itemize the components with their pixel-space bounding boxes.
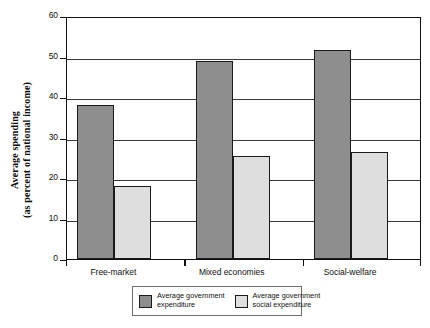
y-tick-label: 30: [49, 132, 58, 142]
bar-free-market-series-0: [77, 105, 114, 259]
y-tick-label: 10: [49, 213, 58, 223]
x-axis: Free-marketMixed economiesSocial-welfare: [66, 260, 421, 284]
y-axis-ticks: 0102030405060: [0, 17, 66, 260]
bar-series-group: [67, 18, 420, 259]
legend-label-1-line-2: social expenditure: [253, 300, 312, 309]
x-axis-label-social-welfare: Social-welfare: [324, 267, 377, 277]
x-tick-2: [303, 260, 304, 266]
y-tick-label: 40: [49, 91, 58, 101]
bar-mixed-economies-series-0: [196, 61, 233, 259]
plot-area: [66, 17, 421, 260]
x-axis-label-mixed-economies: Mixed economies: [199, 267, 264, 277]
x-tick-1: [184, 260, 185, 266]
legend-label-1: Average government social expenditure: [253, 292, 321, 309]
chart-legend: Average government expenditure Average g…: [132, 286, 302, 316]
x-axis-label-free-market: Free-market: [90, 267, 136, 277]
legend-swatch-icon-light: [235, 295, 248, 308]
y-tick-label: 60: [49, 10, 58, 20]
bar-mixed-economies-series-1: [233, 156, 270, 259]
legend-item-government-social-expenditure: Average government social expenditure: [235, 292, 321, 309]
x-tick-0: [66, 260, 67, 266]
y-tick-label: 0: [53, 253, 58, 263]
bar-social-welfare-series-0: [314, 50, 351, 259]
legend-swatch-icon-dark: [139, 295, 152, 308]
legend-label-0: Average government expenditure: [157, 292, 225, 309]
y-tick-label: 20: [49, 172, 58, 182]
bar-chart: Average spending (as percent of national…: [0, 0, 430, 328]
x-tick-3: [420, 260, 421, 266]
bar-social-welfare-series-1: [351, 152, 388, 259]
bar-free-market-series-1: [114, 186, 151, 259]
legend-label-0-line-2: expenditure: [157, 300, 195, 309]
legend-item-government-expenditure: Average government expenditure: [139, 292, 225, 309]
y-tick-label: 50: [49, 51, 58, 61]
